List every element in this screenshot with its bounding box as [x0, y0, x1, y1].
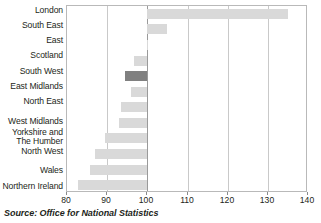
tick-label-120: 120	[220, 195, 234, 205]
bar-south-east	[147, 24, 167, 34]
value-axis: 8090100110120130140	[66, 192, 307, 206]
source-note: Source: Office for National Statistics	[4, 208, 158, 218]
gridline-120	[228, 6, 229, 191]
bar-north-west	[95, 149, 147, 159]
category-label-north-east: North East	[0, 97, 63, 106]
bar-northern-ireland	[78, 180, 147, 190]
category-label-east-midlands: East Midlands	[0, 82, 63, 91]
category-label-london: London	[0, 6, 63, 15]
category-label-scotland: Scotland	[0, 51, 63, 60]
plot-area	[66, 5, 307, 192]
category-label-south-east: South East	[0, 21, 63, 30]
category-label-west-midlands: West Midlands	[0, 117, 63, 126]
category-label-north-west: North West	[0, 147, 63, 156]
gridline-110	[188, 6, 189, 191]
tick-label-130: 130	[260, 195, 274, 205]
category-label-yorkshire: Yorkshire and The Humber	[0, 128, 63, 146]
bar-scotland	[134, 56, 147, 66]
bar-yorkshire-and-the-humber	[105, 133, 147, 143]
bar-west-midlands	[119, 118, 147, 128]
bar-chart-figure: London South East East Scotland South We…	[0, 0, 321, 223]
category-label-east: East	[0, 36, 63, 45]
category-label-wales: Wales	[0, 166, 63, 175]
tick-label-110: 110	[180, 195, 194, 205]
bar-east	[147, 40, 148, 50]
bar-london	[147, 9, 288, 19]
tick-label-140: 140	[300, 195, 314, 205]
category-label-northern-ireland: Northern Ireland	[0, 182, 63, 191]
bar-south-west	[125, 71, 147, 81]
tick-label-90: 90	[101, 195, 111, 205]
gridline-130	[268, 6, 269, 191]
bar-east-midlands	[131, 87, 147, 97]
tick-label-80: 80	[61, 195, 71, 205]
category-label-south-west: South West	[0, 67, 63, 76]
bar-north-east	[121, 102, 147, 112]
category-axis: London South East East Scotland South We…	[0, 5, 63, 192]
gridline-90	[107, 6, 108, 191]
bar-wales	[90, 165, 147, 175]
tick-label-100: 100	[139, 195, 153, 205]
